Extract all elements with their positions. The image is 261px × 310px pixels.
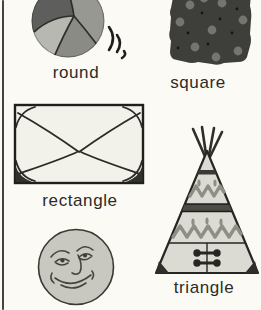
beach-ball-icon <box>28 0 130 62</box>
page-edge-line <box>2 0 4 310</box>
label-round: round <box>26 63 126 83</box>
cookie-square-icon <box>164 0 256 68</box>
label-square: square <box>148 73 248 93</box>
label-rectangle: rectangle <box>30 191 130 211</box>
envelope-icon <box>13 103 145 185</box>
moon-face-icon <box>35 226 117 310</box>
teepee-icon <box>150 125 261 277</box>
book-page: round square r <box>0 0 261 310</box>
motion-lines-icon <box>109 27 125 58</box>
label-triangle: triangle <box>154 278 254 298</box>
